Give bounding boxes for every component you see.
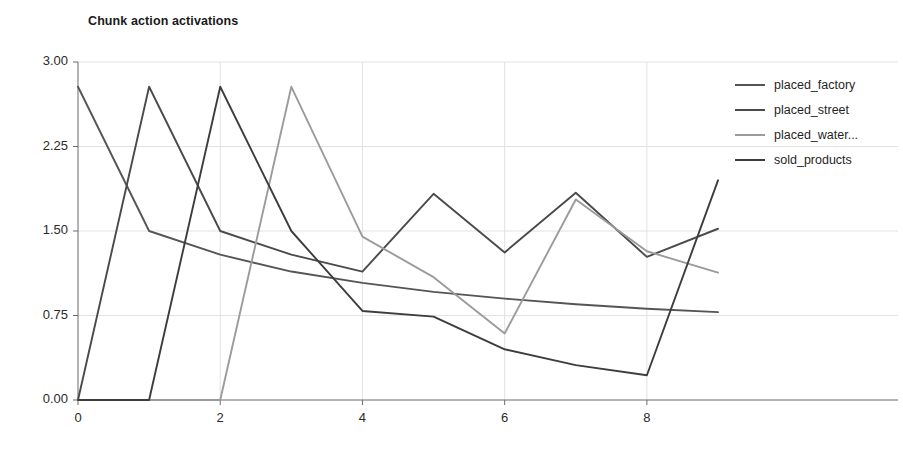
legend-color-swatch (735, 134, 765, 136)
y-axis-tick-label: 0.00 (22, 391, 68, 406)
series-line-placed_water (78, 87, 718, 400)
series-line-sold_products (78, 87, 718, 400)
plot-area (0, 0, 903, 451)
legend-color-swatch (735, 84, 765, 86)
legend-color-swatch (735, 109, 765, 111)
x-axis-tick-label: 0 (64, 410, 92, 425)
legend-item-label: placed_factory (774, 78, 855, 92)
y-axis-tick-label: 3.00 (22, 53, 68, 68)
y-axis-tick-label: 2.25 (22, 138, 68, 153)
series-line-placed_street (78, 87, 718, 400)
x-axis-tick-label: 6 (491, 410, 519, 425)
legend-item-label: placed_street (774, 103, 849, 117)
legend-item[interactable]: placed_water... (735, 122, 900, 147)
x-axis-tick-label: 2 (206, 410, 234, 425)
legend-item-label: placed_water... (774, 128, 858, 142)
y-axis-tick-label: 0.75 (22, 307, 68, 322)
x-axis-tick-label: 4 (348, 410, 376, 425)
series-line-placed_factory (78, 87, 718, 312)
chart-container: Chunk action activations placed_factoryp… (0, 0, 903, 451)
y-axis-tick-label: 1.50 (22, 222, 68, 237)
legend-color-swatch (735, 159, 765, 161)
x-axis-tick-label: 8 (633, 410, 661, 425)
legend-item[interactable]: placed_street (735, 97, 900, 122)
legend-item[interactable]: placed_factory (735, 72, 900, 97)
legend-item-label: sold_products (774, 153, 852, 167)
legend-item[interactable]: sold_products (735, 147, 900, 172)
chart-legend: placed_factoryplaced_streetplaced_water.… (735, 72, 900, 172)
